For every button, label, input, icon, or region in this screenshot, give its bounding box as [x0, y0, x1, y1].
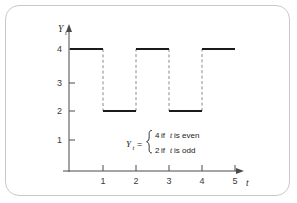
x-axis-ticks: [103, 165, 235, 171]
formula-case-2-rest: is odd: [174, 146, 195, 155]
y-axis-tick-labels: 4 3 2 1: [57, 44, 62, 145]
step-function-chart: 4 3 2 1 1 2 3 4 5: [6, 6, 291, 197]
x-axis-tick-labels: 1 2 3 4 5: [100, 176, 237, 186]
y-tick-label-1: 1: [57, 135, 62, 145]
formula-case-line-2: 2 if t is odd: [155, 146, 195, 155]
formula-variable: Y: [126, 139, 132, 149]
formula-case-2-variable: t: [170, 146, 173, 155]
y-axis-label-text: Y: [58, 24, 65, 34]
y-axis-arrow-icon: [66, 24, 72, 32]
formula-case-1-variable: t: [170, 131, 173, 140]
x-tick-label-1: 1: [100, 176, 105, 186]
piecewise-formula-annotation: Y t = 4 if t is even 2 if t is odd: [126, 131, 199, 156]
x-axis-label-text: t: [246, 178, 249, 188]
chart-plot-area: 4 3 2 1 1 2 3 4 5: [6, 6, 291, 197]
y-axis-label: Y t: [58, 24, 67, 36]
y-tick-label-2: 2: [57, 106, 62, 116]
formula-equals-sign: =: [137, 139, 142, 149]
y-axis-ticks: [69, 49, 75, 140]
formula-case-1-value: 4: [155, 131, 160, 140]
y-tick-label-3: 3: [57, 78, 62, 88]
step-transitions: [103, 49, 202, 111]
formula-case-1-if: if: [161, 131, 166, 140]
step-levels: [70, 49, 235, 111]
x-axis: [63, 168, 244, 174]
x-axis-label: t: [246, 178, 249, 188]
x-axis-arrow-icon: [236, 168, 244, 174]
formula-case-2-value: 2: [155, 146, 160, 155]
formula-left-brace-icon: [147, 131, 152, 153]
formula-case-2-if: if: [161, 146, 166, 155]
y-axis: [66, 24, 72, 172]
y-tick-label-4: 4: [57, 44, 62, 54]
y-axis-label-subscript: t: [65, 29, 67, 36]
x-tick-label-3: 3: [166, 176, 171, 186]
x-tick-label-4: 4: [199, 176, 204, 186]
x-tick-label-2: 2: [133, 176, 138, 186]
formula-case-1-rest: is even: [174, 131, 199, 140]
x-tick-label-5: 5: [232, 176, 237, 186]
formula-variable-subscript: t: [133, 144, 135, 151]
figure-card: 4 3 2 1 1 2 3 4 5: [5, 5, 290, 196]
formula-case-line-1: 4 if t is even: [155, 131, 199, 140]
